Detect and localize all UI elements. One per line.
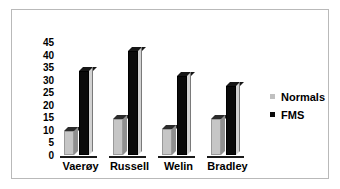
bar-front-face	[128, 51, 138, 155]
chart-figure: 454035302520151050 VaerøyRussellWelinBra…	[0, 0, 340, 189]
bar-group	[162, 42, 191, 155]
floor-segment	[207, 156, 244, 158]
plot-area	[56, 42, 252, 155]
y-axis-tick-20: 20	[32, 100, 54, 109]
bar-fms-russell[interactable]	[128, 47, 142, 155]
axis-floor	[56, 155, 257, 159]
y-axis: 454035302520151050	[28, 42, 54, 155]
chart-legend: NormalsFMS	[270, 89, 340, 125]
bar-front-face	[64, 131, 74, 155]
legend-item-normals[interactable]: Normals	[270, 89, 340, 104]
y-axis-tick-45: 45	[32, 38, 54, 47]
bar-front-face	[113, 119, 123, 155]
bar-front-face	[162, 129, 172, 155]
legend-item-fms[interactable]: FMS	[270, 107, 340, 122]
bar-normals-bradley[interactable]	[211, 115, 225, 155]
bar-group	[113, 42, 142, 155]
floor-segment	[60, 156, 97, 158]
bar-normals-vaerøy[interactable]	[64, 127, 78, 155]
y-axis-tick-25: 25	[32, 88, 54, 97]
y-axis-tick-30: 30	[32, 75, 54, 84]
y-axis-tick-5: 5	[32, 138, 54, 147]
legend-swatch-icon	[270, 94, 275, 99]
bar-side-face	[123, 115, 127, 155]
x-axis-label-bradley: Bradley	[197, 160, 258, 172]
bar-side-face	[138, 47, 142, 155]
y-axis-tick-40: 40	[32, 50, 54, 59]
bar-side-face	[221, 115, 225, 155]
bar-normals-russell[interactable]	[113, 115, 127, 155]
bar-fms-welin[interactable]	[177, 72, 191, 155]
x-axis-labels: VaerøyRussellWelinBradley	[56, 160, 257, 174]
legend-swatch-icon	[270, 112, 275, 117]
legend-label: FMS	[281, 109, 304, 121]
bar-side-face	[236, 82, 240, 155]
y-axis-tick-0: 0	[32, 151, 54, 160]
bar-side-face	[187, 72, 191, 155]
bar-fms-bradley[interactable]	[226, 82, 240, 155]
y-axis-tick-15: 15	[32, 113, 54, 122]
bar-side-face	[89, 67, 93, 155]
bar-fms-vaerøy[interactable]	[79, 67, 93, 155]
legend-label: Normals	[281, 91, 325, 103]
chart-frame: 454035302520151050 VaerøyRussellWelinBra…	[11, 9, 329, 179]
floor-segment	[109, 156, 146, 158]
bar-group	[211, 42, 240, 155]
y-axis-tick-35: 35	[32, 63, 54, 72]
bar-side-face	[74, 127, 78, 155]
bar-normals-welin[interactable]	[162, 125, 176, 155]
bar-front-face	[211, 119, 221, 155]
bar-group	[64, 42, 93, 155]
floor-segment	[158, 156, 195, 158]
y-axis-tick-10: 10	[32, 125, 54, 134]
bar-front-face	[177, 76, 187, 155]
bar-front-face	[226, 86, 236, 155]
bar-front-face	[79, 71, 89, 155]
bar-side-face	[172, 125, 176, 155]
